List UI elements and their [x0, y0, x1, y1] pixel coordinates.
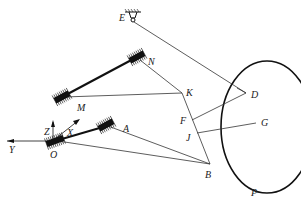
- label-y: Y: [9, 144, 16, 155]
- label-b: B: [205, 169, 211, 180]
- link-fd: [192, 93, 246, 120]
- slider-a-icon: [96, 116, 116, 134]
- label-p: P: [250, 187, 257, 198]
- label-m: M: [76, 102, 86, 113]
- fixed-support-e-icon: [125, 9, 141, 22]
- label-x: X: [66, 127, 74, 138]
- label-o: O: [50, 149, 57, 160]
- mechanism-diagram: E N M K D F J G A B O P X Y Z: [0, 0, 301, 200]
- label-z: Z: [44, 126, 50, 137]
- link-ob: [58, 141, 210, 164]
- label-f: F: [179, 115, 187, 126]
- link-de: [237, 88, 246, 93]
- bar-mn: [62, 57, 137, 97]
- label-n: N: [147, 56, 156, 67]
- label-j: J: [186, 132, 191, 143]
- label-k: K: [185, 87, 194, 98]
- label-d: D: [250, 89, 259, 100]
- link-nk: [140, 60, 182, 93]
- slider-m-icon: [52, 88, 72, 106]
- label-g: G: [261, 117, 268, 128]
- label-a: A: [122, 123, 130, 134]
- link-kb: [182, 93, 210, 164]
- link-jg: [197, 123, 256, 133]
- link-mk: [64, 93, 182, 97]
- label-e: E: [118, 12, 125, 23]
